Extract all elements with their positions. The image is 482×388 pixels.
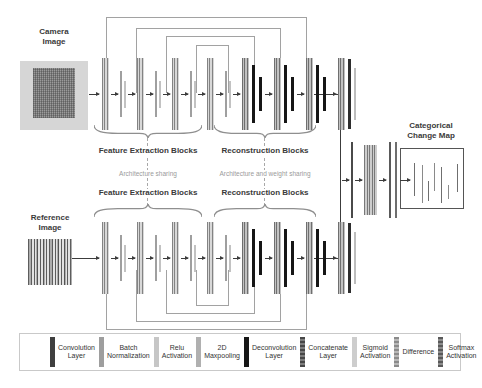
layer-bar-relu — [225, 235, 227, 281]
layer-bar-pool — [159, 245, 161, 272]
flow-arrow-icon — [355, 180, 362, 181]
layer-bar-concat — [306, 222, 313, 294]
layer-bar-convbn — [172, 222, 179, 294]
layer-bar-deconvs — [291, 241, 294, 275]
layer-bar-convbn — [102, 58, 109, 130]
legend-item-label: Concatenate Layer — [308, 344, 348, 361]
reference-image-thumbnail — [28, 239, 72, 285]
change-map-line — [441, 167, 442, 203]
flow-arrow-icon — [329, 258, 336, 259]
layer-bar-pool — [194, 245, 196, 272]
layer-bar-concat — [242, 58, 249, 130]
legend-item-diff: Difference — [394, 337, 434, 367]
flow-arrow-icon — [233, 258, 240, 259]
deconv-swatch-icon — [244, 337, 249, 367]
change-map-line — [457, 164, 458, 192]
layer-bar-pool — [124, 245, 126, 272]
flow-arrow-icon — [233, 94, 240, 95]
flow-arrow-icon — [111, 94, 118, 95]
legend-item-label: Sigmoid Activation — [360, 344, 390, 361]
layer-bar-convbn — [207, 222, 214, 294]
layer-bar-deconvs — [323, 241, 326, 275]
flow-arrow-icon — [265, 94, 272, 95]
flow-arrow-icon — [400, 180, 410, 181]
layer-bar-deconv — [316, 65, 319, 123]
flow-arrow-icon — [329, 94, 336, 95]
layer-bar-pool — [159, 81, 161, 108]
flow-arrow-icon — [111, 258, 118, 259]
layer-bar-concat — [306, 58, 313, 130]
layer-bar-endthin — [354, 232, 356, 284]
flow-arrow-icon — [146, 258, 153, 259]
change-map-line — [414, 163, 415, 196]
layer-bar-pool — [194, 81, 196, 108]
top-branch-layers — [88, 54, 357, 134]
legend-item-deconv: Deconvolution Layer — [244, 337, 296, 367]
reference-input-line — [72, 258, 89, 259]
flow-arrow-icon — [297, 258, 304, 259]
change-map-line — [428, 181, 429, 201]
layer-bar-deconvs — [259, 241, 262, 275]
reconstruction-label-bottom: Reconstruction Blocks — [212, 189, 318, 198]
layer-bar-relu — [155, 235, 157, 281]
layer-bar-relu — [190, 235, 192, 281]
layer-bar-pool — [229, 245, 231, 272]
legend-item-softmax: Softmax Activation — [438, 337, 476, 367]
reference-image-label: Reference Image — [18, 213, 82, 233]
legend-item-pool: 2D Maxpooling — [196, 337, 240, 367]
layer-bar-deconvs — [323, 77, 326, 111]
legend-item-label: Batch Normalization — [107, 344, 150, 361]
layer-bar-endconv — [348, 223, 351, 293]
feature-extraction-label-top: Feature Extraction Blocks — [93, 147, 203, 156]
change-map-line — [448, 185, 449, 199]
flow-arrow-icon — [216, 94, 223, 95]
feature-extraction-label-bottom: Feature Extraction Blocks — [93, 189, 203, 198]
layer-bar-concat — [242, 222, 249, 294]
flow-arrow-icon — [146, 94, 153, 95]
architecture-sharing-label: Architecture sharing — [103, 170, 193, 177]
legend-item-label: Difference — [402, 348, 434, 356]
layer-bar-deconv — [316, 229, 319, 287]
layer-bar-deconvs — [259, 77, 262, 111]
layer-bar-pool — [124, 81, 126, 108]
layer-bar-mthin — [389, 142, 391, 218]
flow-arrow-icon — [379, 180, 386, 181]
flow-arrow-icon — [128, 94, 135, 95]
layer-bar-convbn — [137, 222, 144, 294]
camera-image-thumbnail — [20, 61, 88, 130]
conv-swatch-icon — [50, 337, 55, 367]
sigmoid-swatch-icon — [352, 337, 357, 367]
layer-bar-relu — [190, 71, 192, 117]
layer-bar-relu — [120, 235, 122, 281]
layer-bar-relu — [225, 71, 227, 117]
layer-bar-endconv — [348, 59, 351, 129]
bottom-branch-layers — [88, 218, 357, 298]
legend-item-label: Softmax Activation — [446, 344, 476, 361]
layer-bar-diffbar — [351, 142, 353, 218]
flow-arrow-icon — [216, 258, 223, 259]
layer-bar-concat — [338, 58, 345, 130]
flow-arrow-icon — [265, 258, 272, 259]
layer-bar-mconcat — [364, 145, 377, 215]
change-map-line — [422, 165, 423, 203]
architecture-weight-sharing-label: Architecture and weight sharing — [205, 170, 325, 177]
camera-image-label: Camera Image — [20, 27, 88, 47]
change-map-label: Categorical Change Map — [396, 121, 466, 142]
flow-arrow-icon — [163, 258, 170, 259]
flow-arrow-icon — [198, 94, 205, 95]
legend-item-label: 2D Maxpooling — [204, 344, 240, 361]
flow-arrow-icon — [297, 94, 304, 95]
concat-swatch-icon — [300, 337, 305, 367]
layer-bar-convbn — [102, 222, 109, 294]
flow-arrow-icon — [163, 94, 170, 95]
flow-arrow-icon — [342, 180, 349, 181]
layer-bar-convbn — [137, 58, 144, 130]
legend: Convolution LayerBatch NormalizationRelu… — [19, 333, 461, 371]
layer-bar-deconv — [252, 229, 255, 287]
architecture-diagram: { "inputs": { "camera_label": "Camera\nI… — [0, 0, 482, 388]
layer-bar-deconvs — [291, 77, 294, 111]
legend-item-label: Convolution Layer — [58, 344, 95, 361]
flow-arrow-icon — [198, 258, 205, 259]
flow-arrow-icon — [181, 258, 188, 259]
legend-item-relu: Relu Activation — [154, 337, 192, 367]
